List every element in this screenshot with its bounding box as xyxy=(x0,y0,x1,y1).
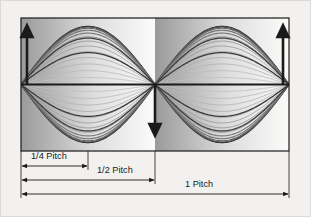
pitch-diagram-figure: 1/4 Pitch 1/2 Pitch 1 Pitch xyxy=(0,0,311,217)
dimension-label-quarter-pitch: 1/4 Pitch xyxy=(31,151,67,161)
dimension-label-half-pitch: 1/2 Pitch xyxy=(97,165,133,175)
dimension-label-one-pitch: 1 Pitch xyxy=(185,179,213,189)
diagram-canvas: 1/4 Pitch 1/2 Pitch 1 Pitch xyxy=(0,0,311,217)
